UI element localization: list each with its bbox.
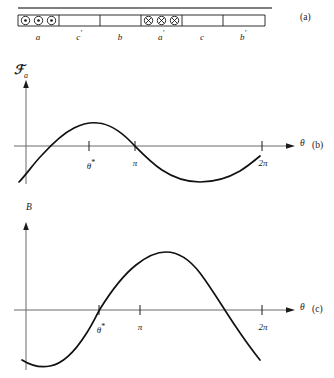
- phase-band-label-b: b: [110, 29, 130, 42]
- panel-b-tick-2pi: 2π: [251, 158, 275, 168]
- phase-band-label-b-prime: b′: [233, 29, 253, 42]
- phase-band-label-c-prime: c′: [69, 29, 89, 42]
- phase-band-letter: a: [36, 32, 41, 42]
- phase-band-label-a-prime: a′: [151, 29, 171, 42]
- panel-c-graphic: [0, 198, 334, 378]
- mmf-curve: [19, 123, 260, 182]
- panel-c-tick-pi: π: [130, 322, 150, 332]
- flux-density-curve: [22, 252, 260, 367]
- panel-b-x-axis: [14, 143, 295, 149]
- panel-b-tick-pi: π: [125, 158, 145, 168]
- panel-c-y-axis-label: B: [26, 202, 32, 212]
- script-f-glyph: ℱ: [14, 62, 24, 77]
- panel-tag-b: (b): [312, 140, 323, 150]
- panel-c-y-axis: [23, 222, 29, 370]
- phase-band-prime: ′: [162, 29, 164, 38]
- panel-c-x-axis: [14, 307, 295, 313]
- star-mark: *: [91, 158, 95, 167]
- panel-b-graphic: [0, 58, 334, 188]
- panel-c-x-axis-label: θ: [300, 302, 305, 312]
- conductor-group-a-out-of-page: [21, 16, 55, 24]
- panel-b-y-axis: [23, 80, 29, 184]
- panel-c-tick-theta-star: θ*: [89, 322, 113, 335]
- star-mark: *: [101, 322, 105, 331]
- panel-b-x-axis-label: θ: [300, 138, 305, 148]
- figure-root: (a) a c′ b a′ c b′: [0, 0, 334, 378]
- panel-c-tick-2pi: 2π: [251, 322, 275, 332]
- phase-band-label-a: a: [28, 29, 48, 42]
- panel-b-tick-theta-star: θ*: [79, 158, 103, 171]
- subscript-a: a: [24, 71, 28, 80]
- phase-band-prime: ′: [244, 29, 246, 38]
- phase-band-prime: ′: [80, 29, 82, 38]
- phase-band-letter: b: [118, 32, 123, 42]
- phase-band-label-c: c: [192, 29, 212, 42]
- conductor-group-a-prime-into-page: [144, 16, 178, 24]
- mmf-axis-symbol: ℱa: [14, 62, 28, 80]
- panel-tag-c: (c): [312, 304, 323, 314]
- slot-band: [18, 15, 265, 26]
- phase-band-letter: c: [200, 32, 204, 42]
- panel-tag-a: (a): [300, 12, 311, 22]
